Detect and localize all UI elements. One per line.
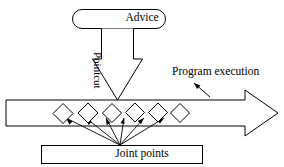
pointcut-label: Pointcut: [92, 52, 103, 89]
aop-weaving-diagram: Advice Pointcut Program execution Joint …: [0, 0, 284, 167]
program-execution-label: Program execution: [172, 66, 259, 78]
advice-label: Advice: [0, 12, 284, 24]
joint-points-label: Joint points: [0, 148, 284, 160]
diagram-canvas: [0, 0, 284, 167]
